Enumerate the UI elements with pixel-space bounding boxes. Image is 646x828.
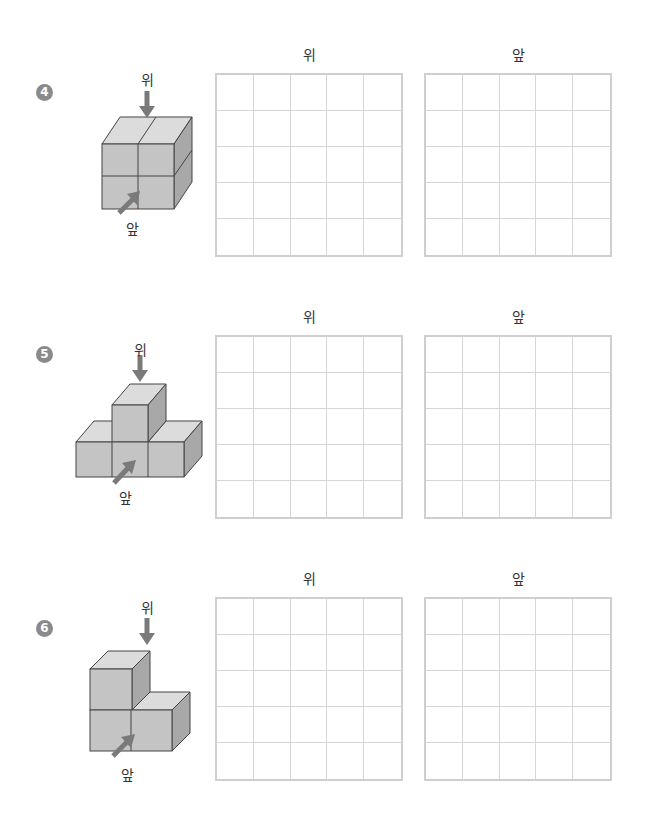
grid-cell[interactable]: [500, 337, 537, 373]
grid-cell[interactable]: [364, 147, 401, 183]
front-view-grid[interactable]: [424, 73, 612, 257]
top-view-grid[interactable]: [215, 73, 403, 257]
grid-cell[interactable]: [217, 147, 254, 183]
grid-cell[interactable]: [500, 111, 537, 147]
grid-cell[interactable]: [291, 219, 328, 255]
grid-cell[interactable]: [254, 373, 291, 409]
grid-cell[interactable]: [536, 75, 573, 111]
grid-cell[interactable]: [463, 481, 500, 517]
grid-cell[interactable]: [500, 635, 537, 671]
grid-cell[interactable]: [327, 337, 364, 373]
grid-cell[interactable]: [327, 481, 364, 517]
grid-cell[interactable]: [426, 743, 463, 779]
grid-cell[interactable]: [500, 147, 537, 183]
grid-cell[interactable]: [327, 409, 364, 445]
grid-cell[interactable]: [426, 445, 463, 481]
grid-cell[interactable]: [254, 75, 291, 111]
grid-cell[interactable]: [573, 337, 610, 373]
grid-cell[interactable]: [254, 183, 291, 219]
grid-cell[interactable]: [500, 183, 537, 219]
grid-cell[interactable]: [254, 111, 291, 147]
grid-cell[interactable]: [536, 183, 573, 219]
grid-cell[interactable]: [291, 635, 328, 671]
grid-cell[interactable]: [536, 373, 573, 409]
grid-cell[interactable]: [536, 337, 573, 373]
grid-cell[interactable]: [573, 75, 610, 111]
grid-cell[interactable]: [327, 147, 364, 183]
grid-cell[interactable]: [463, 337, 500, 373]
grid-cell[interactable]: [500, 599, 537, 635]
grid-cell[interactable]: [364, 481, 401, 517]
grid-cell[interactable]: [536, 111, 573, 147]
grid-cell[interactable]: [463, 445, 500, 481]
grid-cell[interactable]: [254, 671, 291, 707]
grid-cell[interactable]: [364, 183, 401, 219]
grid-cell[interactable]: [254, 147, 291, 183]
grid-cell[interactable]: [463, 635, 500, 671]
grid-cell[interactable]: [500, 743, 537, 779]
grid-cell[interactable]: [500, 409, 537, 445]
grid-cell[interactable]: [536, 743, 573, 779]
grid-cell[interactable]: [364, 599, 401, 635]
grid-cell[interactable]: [463, 219, 500, 255]
grid-cell[interactable]: [573, 635, 610, 671]
grid-cell[interactable]: [217, 707, 254, 743]
grid-cell[interactable]: [573, 445, 610, 481]
grid-cell[interactable]: [291, 445, 328, 481]
grid-cell[interactable]: [327, 635, 364, 671]
grid-cell[interactable]: [426, 219, 463, 255]
grid-cell[interactable]: [217, 337, 254, 373]
grid-cell[interactable]: [217, 111, 254, 147]
grid-cell[interactable]: [500, 707, 537, 743]
grid-cell[interactable]: [327, 707, 364, 743]
grid-cell[interactable]: [536, 409, 573, 445]
grid-cell[interactable]: [291, 707, 328, 743]
grid-cell[interactable]: [254, 337, 291, 373]
grid-cell[interactable]: [217, 743, 254, 779]
grid-cell[interactable]: [327, 219, 364, 255]
grid-cell[interactable]: [254, 481, 291, 517]
grid-cell[interactable]: [426, 111, 463, 147]
grid-cell[interactable]: [463, 147, 500, 183]
grid-cell[interactable]: [536, 481, 573, 517]
grid-cell[interactable]: [500, 75, 537, 111]
grid-cell[interactable]: [536, 671, 573, 707]
grid-cell[interactable]: [536, 445, 573, 481]
grid-cell[interactable]: [426, 481, 463, 517]
grid-cell[interactable]: [573, 671, 610, 707]
grid-cell[interactable]: [291, 111, 328, 147]
grid-cell[interactable]: [463, 373, 500, 409]
grid-cell[interactable]: [291, 743, 328, 779]
grid-cell[interactable]: [573, 409, 610, 445]
grid-cell[interactable]: [500, 373, 537, 409]
grid-cell[interactable]: [426, 671, 463, 707]
grid-cell[interactable]: [217, 445, 254, 481]
grid-cell[interactable]: [573, 147, 610, 183]
grid-cell[interactable]: [254, 445, 291, 481]
grid-cell[interactable]: [217, 183, 254, 219]
grid-cell[interactable]: [364, 75, 401, 111]
top-view-grid[interactable]: [215, 597, 403, 781]
grid-cell[interactable]: [573, 743, 610, 779]
grid-cell[interactable]: [573, 219, 610, 255]
grid-cell[interactable]: [463, 409, 500, 445]
grid-cell[interactable]: [327, 671, 364, 707]
grid-cell[interactable]: [463, 599, 500, 635]
grid-cell[interactable]: [254, 707, 291, 743]
grid-cell[interactable]: [573, 183, 610, 219]
grid-cell[interactable]: [291, 373, 328, 409]
grid-cell[interactable]: [463, 671, 500, 707]
grid-cell[interactable]: [254, 635, 291, 671]
grid-cell[interactable]: [364, 409, 401, 445]
grid-cell[interactable]: [217, 481, 254, 517]
grid-cell[interactable]: [291, 599, 328, 635]
grid-cell[interactable]: [291, 183, 328, 219]
grid-cell[interactable]: [426, 337, 463, 373]
grid-cell[interactable]: [327, 445, 364, 481]
grid-cell[interactable]: [463, 183, 500, 219]
grid-cell[interactable]: [500, 445, 537, 481]
grid-cell[interactable]: [291, 147, 328, 183]
grid-cell[interactable]: [291, 75, 328, 111]
grid-cell[interactable]: [364, 671, 401, 707]
grid-cell[interactable]: [573, 111, 610, 147]
